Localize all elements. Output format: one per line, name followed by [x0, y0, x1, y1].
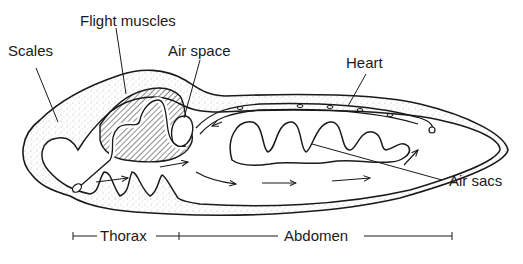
anatomy-diagram: Flight muscles Scales Air space Heart Ai…: [0, 0, 523, 264]
label-heart: Heart: [346, 54, 384, 71]
label-abdomen: Abdomen: [284, 227, 348, 244]
label-flight-muscles: Flight muscles: [80, 12, 176, 29]
region-ruler: Thorax Abdomen: [73, 227, 452, 244]
label-air-sacs: Air sacs: [449, 172, 502, 189]
label-air-space: Air space: [168, 42, 231, 59]
label-thorax: Thorax: [100, 227, 147, 244]
label-scales: Scales: [8, 42, 53, 59]
